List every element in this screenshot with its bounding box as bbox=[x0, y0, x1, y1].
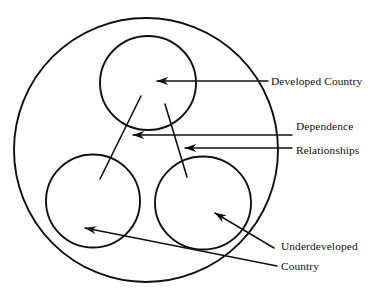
relationships-label: Relationships bbox=[296, 144, 360, 156]
underdeveloped-country-circle-right bbox=[155, 157, 251, 250]
underdeveloped-country-circle-left bbox=[46, 155, 140, 248]
underdeveloped-country-arrow bbox=[215, 213, 274, 248]
country-label: Country bbox=[281, 260, 319, 272]
developed-country-circle bbox=[100, 36, 196, 130]
dependence-relationships-diagram: Developed Country Dependence Relationshi… bbox=[0, 0, 368, 300]
dependence-link-line-left bbox=[100, 96, 141, 179]
developed-country-label: Developed Country bbox=[271, 75, 362, 87]
underdeveloped-label: Underdeveloped bbox=[281, 240, 358, 252]
dependence-label: Dependence bbox=[296, 120, 353, 132]
diagram-canvas: Developed Country Dependence Relationshi… bbox=[0, 0, 368, 300]
world-system-boundary-circle bbox=[14, 18, 278, 282]
